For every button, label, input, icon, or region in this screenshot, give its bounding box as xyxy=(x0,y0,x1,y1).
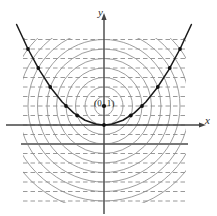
x-axis-label: x xyxy=(205,114,210,126)
curve-point xyxy=(168,66,172,70)
parabola-focus-directrix-figure: y x (0, 1) xyxy=(0,0,217,216)
curve-point xyxy=(75,114,79,118)
curve-point xyxy=(36,66,40,70)
curve-point xyxy=(26,47,30,51)
curve-point xyxy=(64,104,68,108)
curve-point xyxy=(178,47,182,51)
curve-point xyxy=(102,123,106,127)
plot-canvas xyxy=(0,0,217,216)
focus-point-label: (0, 1) xyxy=(94,98,115,108)
y-axis-label: y xyxy=(98,6,103,18)
curve-point xyxy=(140,104,144,108)
curve-point xyxy=(156,85,160,89)
curve-point xyxy=(48,85,52,89)
curve-point xyxy=(129,114,133,118)
